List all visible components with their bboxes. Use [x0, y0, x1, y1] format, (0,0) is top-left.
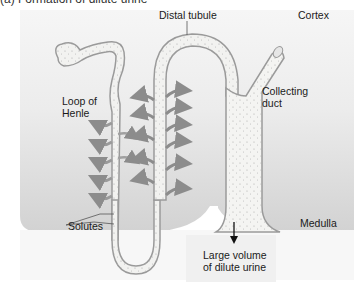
nephron-diagram [0, 0, 364, 289]
label-distal-tubule: Distal tubule [159, 9, 217, 21]
label-medulla: Medulla [300, 217, 337, 229]
label-solutes: Solutes [68, 220, 103, 232]
label-cortex: Cortex [298, 9, 329, 21]
label-collecting-duct: Collecting duct [262, 85, 308, 109]
label-loop-of-henle: Loop of Henle [62, 95, 97, 119]
label-dilute-urine: Large volume of dilute urine [203, 249, 267, 273]
